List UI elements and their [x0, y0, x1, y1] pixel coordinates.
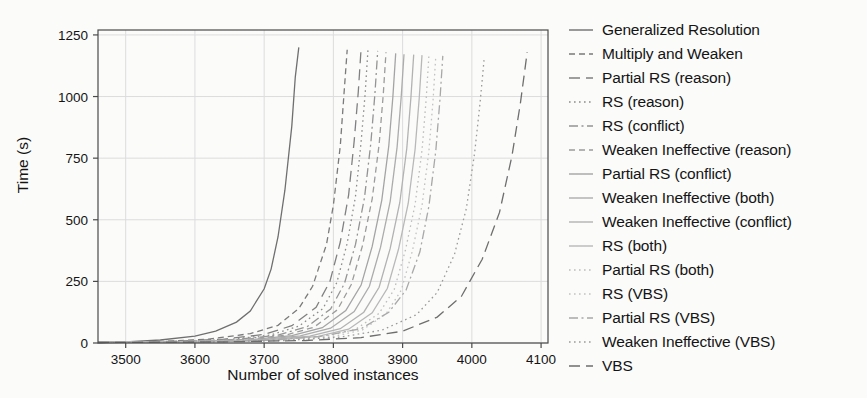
- legend-item[interactable]: Weaken Ineffective (reason): [568, 138, 867, 162]
- axis-frame: [98, 30, 548, 343]
- svg-text:4100: 4100: [526, 352, 556, 367]
- svg-text:3600: 3600: [180, 352, 210, 367]
- axis-ticks: 3500360037003800390040004100025050075010…: [58, 28, 556, 367]
- legend-key-icon: [568, 120, 594, 132]
- svg-text:0: 0: [80, 336, 88, 351]
- legend-item-label: Partial RS (both): [602, 258, 714, 282]
- legend-key-icon: [568, 72, 594, 84]
- legend-item[interactable]: Weaken Ineffective (both): [568, 186, 867, 210]
- legend-item[interactable]: RS (both): [568, 234, 867, 258]
- legend-key-icon: [568, 264, 594, 276]
- legend-item[interactable]: Weaken Ineffective (conflict): [568, 210, 867, 234]
- legend-item-label: Generalized Resolution: [602, 18, 760, 42]
- svg-text:1250: 1250: [58, 28, 88, 43]
- legend-key-icon: [568, 288, 594, 300]
- svg-text:500: 500: [65, 213, 88, 228]
- legend-item-label: RS (reason): [602, 90, 684, 114]
- x-axis-title: Number of solved instances: [98, 366, 548, 384]
- svg-text:3500: 3500: [111, 352, 141, 367]
- legend-item-label: Weaken Ineffective (reason): [602, 138, 791, 162]
- legend-item-label: RS (VBS): [602, 282, 668, 306]
- series-curves: [98, 47, 527, 342]
- svg-text:1000: 1000: [58, 90, 88, 105]
- svg-text:3700: 3700: [249, 352, 279, 367]
- legend: Generalized ResolutionMultiply and Weake…: [568, 18, 867, 378]
- legend-item-label: RS (conflict): [602, 114, 684, 138]
- legend-key-icon: [568, 48, 594, 60]
- legend-item-label: VBS: [602, 354, 633, 378]
- legend-key-icon: [568, 24, 594, 36]
- legend-key-icon: [568, 240, 594, 252]
- legend-item[interactable]: Partial RS (VBS): [568, 306, 867, 330]
- cactus-plot-figure: 3500360037003800390040004100025050075010…: [0, 0, 867, 398]
- legend-item[interactable]: RS (conflict): [568, 114, 867, 138]
- svg-text:4000: 4000: [457, 352, 487, 367]
- legend-item-label: Weaken Ineffective (conflict): [602, 210, 792, 234]
- legend-item[interactable]: RS (reason): [568, 90, 867, 114]
- legend-item[interactable]: VBS: [568, 354, 867, 378]
- legend-item-label: Multiply and Weaken: [602, 42, 743, 66]
- svg-text:3800: 3800: [318, 352, 348, 367]
- legend-item-label: Weaken Ineffective (VBS): [602, 330, 775, 354]
- legend-item[interactable]: Multiply and Weaken: [568, 42, 867, 66]
- legend-item[interactable]: Partial RS (reason): [568, 66, 867, 90]
- legend-key-icon: [568, 312, 594, 324]
- legend-key-icon: [568, 144, 594, 156]
- legend-item-label: Partial RS (reason): [602, 66, 731, 90]
- legend-item-label: Partial RS (VBS): [602, 306, 715, 330]
- legend-item-label: Weaken Ineffective (both): [602, 186, 774, 210]
- legend-item[interactable]: Partial RS (both): [568, 258, 867, 282]
- svg-text:250: 250: [65, 274, 88, 289]
- svg-text:750: 750: [65, 151, 88, 166]
- legend-item-label: RS (both): [602, 234, 667, 258]
- legend-key-icon: [568, 192, 594, 204]
- legend-item-label: Partial RS (conflict): [602, 162, 732, 186]
- legend-key-icon: [568, 360, 594, 372]
- legend-key-icon: [568, 216, 594, 228]
- legend-item[interactable]: RS (VBS): [568, 282, 867, 306]
- legend-key-icon: [568, 336, 594, 348]
- legend-item[interactable]: Weaken Ineffective (VBS): [568, 330, 867, 354]
- gridlines: [98, 30, 548, 343]
- legend-item[interactable]: Partial RS (conflict): [568, 162, 867, 186]
- svg-text:3900: 3900: [388, 352, 418, 367]
- legend-key-icon: [568, 168, 594, 180]
- legend-key-icon: [568, 96, 594, 108]
- legend-item[interactable]: Generalized Resolution: [568, 18, 867, 42]
- y-axis-title: Time (s): [14, 0, 32, 330]
